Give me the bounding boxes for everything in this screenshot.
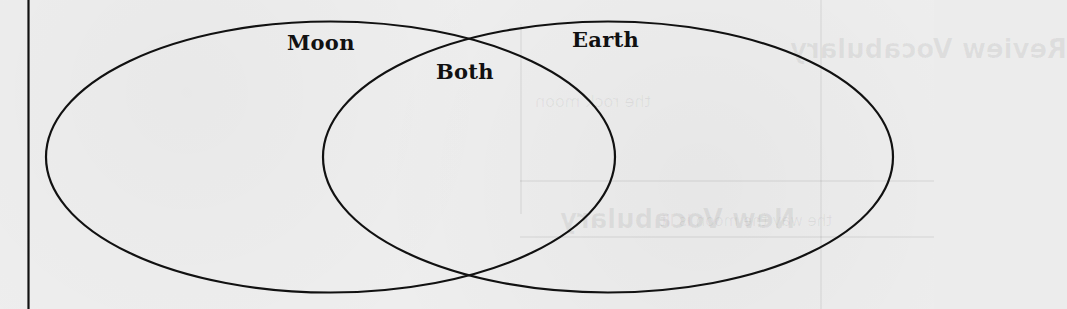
- earth-label: Earth: [572, 29, 639, 50]
- both-label: Both: [436, 61, 494, 82]
- moon-ellipse: [46, 22, 615, 293]
- earth-ellipse: [323, 22, 893, 293]
- moon-label: Moon: [287, 32, 355, 53]
